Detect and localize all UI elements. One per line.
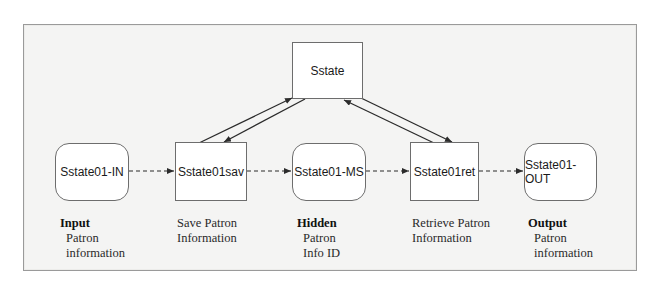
caption-retrieve: Retrieve Patron Information (412, 216, 490, 246)
node-sstate01-in: Sstate01-IN (55, 143, 129, 201)
caption-retrieve-line-2: Information (412, 231, 490, 246)
caption-hidden-line-1: Patron (297, 231, 340, 246)
caption-output-title: Output (528, 216, 593, 231)
caption-input-line-1: Patron (60, 231, 125, 246)
node-sstate01sav: Sstate01sav (175, 142, 247, 201)
node-sstate01-out: Sstate01-OUT (524, 143, 597, 201)
node-ret-label: Sstate01ret (414, 165, 475, 179)
caption-save-line-1: Save Patron (177, 216, 237, 231)
caption-hidden-title: Hidden (297, 216, 340, 231)
node-sav-label: Sstate01sav (178, 165, 244, 179)
caption-input-title: Input (60, 216, 125, 231)
caption-output-line-2: information (528, 246, 593, 261)
node-sstate01-ms: Sstate01-MS (292, 143, 366, 201)
node-ms-label: Sstate01-MS (294, 165, 363, 179)
caption-save: Save Patron Information (177, 216, 237, 246)
caption-input-line-2: information (60, 246, 125, 261)
caption-save-line-2: Information (177, 231, 237, 246)
node-sstate-label: Sstate (310, 64, 344, 78)
node-sstate: Sstate (292, 42, 363, 99)
caption-input: Input Patron information (60, 216, 125, 261)
caption-output: Output Patron information (528, 216, 593, 261)
node-in-label: Sstate01-IN (60, 165, 123, 179)
edge-sstate-to-ret (361, 98, 452, 142)
node-out-label: Sstate01-OUT (525, 158, 596, 186)
edge-ret-to-sstate (344, 100, 434, 143)
caption-hidden-line-2: Info ID (297, 246, 340, 261)
caption-retrieve-line-1: Retrieve Patron (412, 216, 490, 231)
edge-sav-to-sstate (199, 98, 292, 143)
edge-sstate-to-sav (224, 99, 305, 142)
caption-output-line-1: Patron (528, 231, 593, 246)
node-sstate01ret: Sstate01ret (410, 142, 479, 201)
caption-hidden: Hidden Patron Info ID (297, 216, 340, 261)
